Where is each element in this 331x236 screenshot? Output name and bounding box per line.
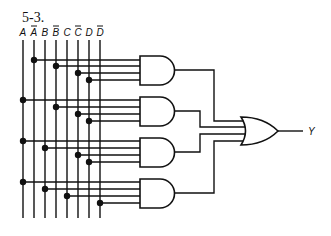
- input-label-b: B: [42, 27, 49, 38]
- junction-dot: [20, 138, 26, 144]
- input-label-c-bar: C: [75, 27, 83, 38]
- and-gate-and3: [20, 138, 175, 167]
- input-label-b-bar: B: [53, 27, 60, 38]
- junction-dot: [75, 70, 81, 76]
- junction-dot: [86, 159, 92, 165]
- junction-dot: [42, 186, 48, 192]
- output-label: Y: [308, 126, 316, 137]
- junction-dot: [86, 118, 92, 124]
- input-label-d-bar: D: [97, 27, 104, 38]
- junction-dot: [42, 145, 48, 151]
- junction-dot: [75, 111, 81, 117]
- junction-dot: [53, 63, 59, 69]
- input-label-a-bar: A: [30, 27, 38, 38]
- junction-dot: [64, 193, 70, 199]
- or-routing: [174, 70, 247, 193]
- input-label-a: A: [19, 27, 27, 38]
- junction-dot: [97, 200, 103, 206]
- junction-dot: [86, 77, 92, 83]
- junction-dot: [20, 97, 26, 103]
- or-gate: [241, 117, 278, 145]
- and-gate-and1: [31, 56, 175, 85]
- and-gate-and4: [20, 179, 175, 208]
- junction-dot: [20, 179, 26, 185]
- logic-circuit-diagram: 5-3. AABBCCDD Y: [0, 0, 331, 236]
- junction-dot: [31, 57, 37, 63]
- and-gates: [20, 56, 175, 208]
- input-label-c: C: [64, 27, 72, 38]
- junction-dot: [53, 104, 59, 110]
- input-labels: AABBCCDD: [19, 26, 104, 38]
- and-gate-and2: [20, 97, 175, 126]
- input-label-d: D: [86, 27, 93, 38]
- figure-label: 5-3.: [22, 10, 44, 25]
- junction-dot: [75, 152, 81, 158]
